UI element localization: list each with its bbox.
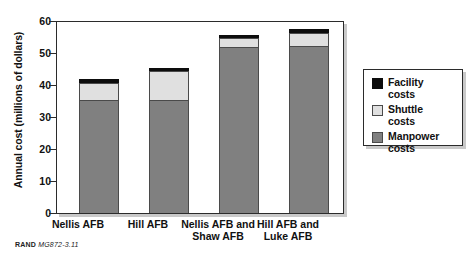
x-category-label-3-line2: Luke AFB <box>240 230 336 242</box>
legend-item-shuttle-label: Shuttle costs <box>388 104 423 127</box>
bar-segment-manpower <box>289 46 329 213</box>
y-tick-mark-50 <box>49 53 56 54</box>
x-category-label-3-line1: Hill AFB and <box>240 218 336 230</box>
y-tick-mark-40 <box>49 85 56 86</box>
legend-item-manpower-label: Manpower costs <box>388 131 439 154</box>
bar-nellis-and-shaw-afb[interactable] <box>219 35 259 214</box>
shuttle-swatch-icon <box>372 105 383 116</box>
bar-segment-manpower <box>219 47 259 213</box>
legend-item-facility-label: Facility costs <box>388 77 423 100</box>
y-tick-label-10: 10 <box>17 176 51 187</box>
y-tick-label-40: 40 <box>17 80 51 91</box>
y-tick-mark-0 <box>49 213 56 214</box>
plot-area <box>56 21 344 214</box>
bar-segment-manpower <box>149 100 189 213</box>
bar-segment-shuttle <box>289 33 329 46</box>
y-tick-label-0: 0 <box>17 208 51 219</box>
source-note: RAND MG872-3.11 <box>15 241 79 248</box>
bar-segment-shuttle <box>149 71 189 99</box>
y-tick-mark-20 <box>49 149 56 150</box>
legend-item-shuttle-costs[interactable]: Shuttle costs <box>372 104 462 127</box>
y-tick-label-20: 20 <box>17 144 51 155</box>
x-category-label-3: Hill AFB and Luke AFB <box>240 218 336 242</box>
bar-hill-afb[interactable] <box>149 68 189 213</box>
bar-nellis-afb[interactable] <box>79 79 119 213</box>
y-tick-mark-10 <box>49 181 56 182</box>
legend-item-facility-costs[interactable]: Facility costs <box>372 77 462 100</box>
bar-segment-shuttle <box>219 38 259 48</box>
source-note-org: RAND <box>15 241 36 248</box>
figure-container: Annual cost (millions of dollars) 60 50 … <box>0 0 474 261</box>
y-tick-label-30: 30 <box>17 112 51 123</box>
bar-segment-manpower <box>79 100 119 213</box>
bar-hill-and-luke-afb[interactable] <box>289 29 329 213</box>
y-tick-label-60: 60 <box>17 16 51 27</box>
bar-segment-shuttle <box>79 83 119 100</box>
manpower-swatch-icon <box>372 132 383 143</box>
y-tick-mark-30 <box>49 117 56 118</box>
legend: Facility costs Shuttle costs Manpower co… <box>363 69 463 146</box>
legend-item-manpower-costs[interactable]: Manpower costs <box>372 131 462 154</box>
plot-frame <box>56 21 344 214</box>
y-tick-mark-60 <box>49 21 56 22</box>
source-note-code: MG872-3.11 <box>38 241 78 248</box>
facility-swatch-icon <box>372 78 383 89</box>
y-tick-label-50: 50 <box>17 48 51 59</box>
